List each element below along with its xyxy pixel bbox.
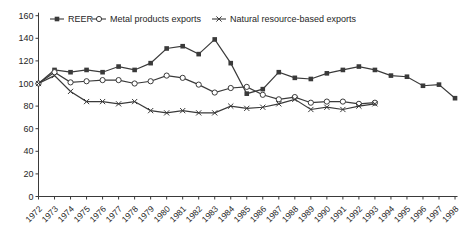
- series-metal-exports-circle-marker: [148, 79, 153, 84]
- series-reer-square-marker: [357, 64, 362, 69]
- series-metal-exports-circle-marker: [68, 80, 73, 85]
- series-reer-square-marker: [100, 70, 105, 75]
- series-metal-exports-circle-marker: [308, 100, 313, 105]
- series-metal-exports-circle-marker: [132, 81, 137, 86]
- y-tick-label: 60: [23, 124, 33, 134]
- legend-square-marker: [55, 17, 60, 22]
- series-metal-exports-circle-marker: [212, 90, 217, 95]
- series-reer-square-marker: [260, 87, 265, 92]
- series-metal-exports-circle-marker: [340, 99, 345, 104]
- series-reer-square-marker: [309, 77, 314, 82]
- series-reer-square-marker: [293, 76, 298, 81]
- series-reer-square-marker: [453, 96, 458, 101]
- series-reer-square-marker: [421, 83, 426, 88]
- legend-circle-marker: [96, 16, 101, 21]
- series-metal-exports-circle-marker: [180, 75, 185, 80]
- y-tick-label: 160: [18, 11, 33, 21]
- series-metal-exports-circle-marker: [100, 78, 105, 83]
- series-reer-square-marker: [341, 68, 346, 73]
- y-tick-label: 80: [23, 101, 33, 111]
- line-chart-svg: 0204060801001201401601972197319741975197…: [0, 0, 471, 232]
- series-metal-exports-circle-marker: [260, 92, 265, 97]
- legend-label: Natural resource-based exports: [230, 14, 357, 24]
- series-metal-exports-circle-marker: [196, 82, 201, 87]
- y-tick-label: 100: [18, 79, 33, 89]
- series-reer-square-marker: [373, 68, 378, 73]
- series-metal-exports-circle-marker: [324, 99, 329, 104]
- y-tick-label: 40: [23, 146, 33, 156]
- y-tick-label: 0: [28, 192, 33, 202]
- series-reer-square-marker: [132, 68, 137, 73]
- series-metal-exports-circle-marker: [244, 84, 249, 89]
- line-chart-figure: 0204060801001201401601972197319741975197…: [0, 0, 471, 232]
- series-reer-square-marker: [228, 61, 233, 66]
- series-reer-square-marker: [244, 91, 249, 96]
- series-reer-square-marker: [277, 70, 282, 75]
- series-metal-exports-circle-marker: [164, 73, 169, 78]
- series-reer-square-marker: [84, 68, 89, 73]
- series-reer-square-marker: [148, 61, 153, 66]
- series-metal-exports-circle-marker: [84, 79, 89, 84]
- y-tick-label: 140: [18, 33, 33, 43]
- series-reer-square-marker: [116, 64, 121, 69]
- series-reer-square-marker: [180, 44, 185, 49]
- series-reer-square-marker: [325, 71, 330, 76]
- series-metal-exports-circle-marker: [116, 78, 121, 83]
- series-reer-square-marker: [389, 73, 394, 78]
- y-tick-label: 20: [23, 169, 33, 179]
- series-reer-square-marker: [212, 37, 217, 42]
- series-reer-square-marker: [164, 46, 169, 51]
- series-reer-square-marker: [68, 70, 73, 75]
- series-reer-square-marker: [196, 52, 201, 57]
- series-metal-exports-circle-marker: [276, 97, 281, 102]
- series-metal-exports-circle-marker: [228, 85, 233, 90]
- legend-label: REER: [68, 14, 94, 24]
- series-reer-square-marker: [405, 74, 410, 79]
- y-tick-label: 120: [18, 56, 33, 66]
- legend-label: Metal products exports: [110, 14, 202, 24]
- series-reer-square-marker: [437, 82, 442, 87]
